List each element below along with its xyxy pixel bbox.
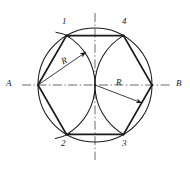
radius-leader-right	[95, 85, 142, 103]
vertex-dot-b	[151, 84, 153, 86]
label-radius-right: R	[116, 78, 122, 87]
vertex-dot-4	[122, 35, 124, 37]
construction-arcs	[55, 32, 124, 138]
vertex-dot-1	[65, 35, 67, 37]
technical-drawing-figure: A B 1 4 2 3 R R	[0, 0, 190, 169]
label-point-a: A	[6, 79, 12, 88]
label-vertex-1: 1	[62, 17, 67, 26]
label-vertex-2: 2	[61, 139, 66, 148]
label-vertex-3: 3	[122, 139, 127, 148]
vertex-dot-center	[94, 84, 96, 86]
vertex-dot-3	[122, 133, 124, 135]
geometry-canvas	[0, 0, 190, 169]
vertex-dot-a	[37, 84, 39, 86]
label-point-b: B	[176, 79, 182, 88]
vertex-dot-2	[65, 133, 67, 135]
label-vertex-4: 4	[122, 17, 127, 26]
